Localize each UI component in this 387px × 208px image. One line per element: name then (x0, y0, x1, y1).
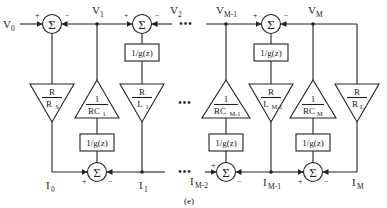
gain-denominator-subscript: 1 (145, 103, 148, 110)
gain-numerator: 1 (95, 94, 100, 104)
gain-numerator: R (268, 87, 274, 97)
label-sub: 1 (144, 185, 148, 194)
gain-denominator-subscript: M-1 (229, 110, 240, 117)
sigma-icon: Σ (309, 165, 317, 180)
label-main: I (46, 179, 50, 191)
minus-sign: − (284, 11, 289, 20)
gain-denominator-subscript: S (55, 103, 59, 110)
junction-dot (311, 22, 315, 26)
top-wires (20, 24, 357, 84)
gain-denominator-subscript: M-1 (271, 103, 282, 110)
label-sub: 0 (11, 24, 15, 33)
gain-numerator: 1 (311, 94, 316, 104)
sum-node-top-2: Σ + − (124, 11, 160, 34)
plus-sign: + (35, 11, 40, 20)
gain-numerator: 1 (224, 94, 229, 104)
plus-sign: + (253, 11, 258, 20)
sigma-icon: Σ (48, 17, 56, 32)
gain-denominator: RC (88, 106, 100, 116)
g-block-label: 1/g(z) (215, 138, 237, 148)
plus-sign: + (298, 177, 303, 186)
label-sub: M (316, 10, 323, 19)
label-main: I (190, 175, 194, 187)
g-block-label: 1/g(z) (131, 48, 153, 58)
plus-sign: + (211, 161, 216, 170)
gain-r-over-lm1: R L M-1 (249, 84, 293, 122)
g-block-bottom-2: 1/g(z) (209, 134, 243, 151)
sum-node-bottom-3: Σ + − (298, 163, 329, 187)
label-sub: M-2 (195, 181, 208, 190)
label-main: I (352, 176, 356, 188)
gain-denominator: L (263, 99, 269, 109)
label-sub: M (357, 182, 364, 191)
label-main: I (263, 176, 267, 188)
gain-r-over-l1: R L 1 (120, 84, 164, 122)
label-v1: V 1 (92, 4, 104, 19)
gain-denominator: L (137, 99, 143, 109)
gain-r-over-rs: R R S (30, 84, 74, 122)
minus-sign: − (237, 177, 242, 186)
ellipsis-top: ••• (179, 18, 193, 29)
minus-sign: − (155, 11, 160, 20)
label-main: V (216, 4, 224, 16)
gain-denominator-subscript: 1 (102, 110, 105, 117)
gain-denominator: R (46, 99, 52, 109)
g-block-label: 1/g(z) (302, 138, 324, 148)
g-block-label: 1/g(z) (260, 48, 282, 58)
label-v0: V 0 (3, 18, 15, 33)
sum-node-top-1: Σ + − (35, 11, 70, 34)
junction-dot (269, 170, 273, 174)
label-sub: M-1 (224, 10, 237, 19)
junction-dot (95, 22, 99, 26)
sigma-icon: Σ (138, 17, 146, 32)
g-block-label: 1/g(z) (86, 138, 108, 148)
figure-caption: (e) (184, 196, 194, 206)
gain-numerator: R (49, 87, 55, 97)
label-vm: V M (308, 4, 323, 19)
label-sub: M-1 (268, 182, 281, 191)
gain-denominator: RC (303, 106, 315, 116)
label-main: V (92, 4, 100, 16)
label-main: V (3, 18, 11, 30)
label-v2: V 2 (170, 4, 182, 19)
plus-sign: + (82, 177, 87, 186)
plus-sign: + (124, 11, 129, 20)
sigma-icon: Σ (93, 165, 101, 180)
gain-denominator: RC (214, 106, 226, 116)
signal-flow-diagram: Σ + − Σ + − Σ + − Σ + − Σ + − Σ + − 1/g(… (0, 0, 387, 208)
gain-1-over-rcm1: 1 RC M-1 (202, 80, 250, 118)
gain-denominator-subscript: L (360, 103, 364, 110)
sum-node-top-3: Σ + − (253, 11, 289, 34)
gain-numerator: R (354, 87, 360, 97)
gain-r-over-rl: R R L (335, 84, 379, 122)
sum-node-bottom-2: Σ + − (211, 161, 242, 186)
label-im: I M (352, 176, 364, 191)
sigma-icon: Σ (267, 17, 275, 32)
label-sub: 2 (178, 10, 182, 19)
gain-denominator: R (352, 99, 358, 109)
ellipsis-middle: ••• (178, 97, 192, 108)
label-sub: 1 (100, 10, 104, 19)
sum-node-bottom-1: Σ + − (82, 163, 113, 187)
label-vm-1: V M-1 (216, 4, 237, 19)
label-im-1: I M-1 (263, 176, 281, 191)
g-block-bottom-3: 1/g(z) (296, 134, 330, 151)
label-main: V (170, 4, 178, 16)
minus-sign: − (108, 177, 113, 186)
label-sub: 0 (51, 185, 55, 194)
gain-denominator-subscript: M (317, 110, 323, 117)
gain-numerator: R (139, 87, 145, 97)
g-block-top-1: 1/g(z) (125, 44, 159, 61)
gain-1-over-rc1: 1 RC 1 (75, 80, 119, 118)
label-i1: I 1 (139, 179, 148, 194)
minus-sign: − (324, 177, 329, 186)
g-block-top-2: 1/g(z) (254, 44, 288, 61)
gain-1-over-rcm: 1 RC M (290, 80, 336, 118)
label-i0: I 0 (46, 179, 55, 194)
junction-dot (140, 170, 144, 174)
minus-sign: − (65, 11, 70, 20)
sigma-icon: Σ (222, 165, 230, 180)
label-im-2: I M-2 (190, 175, 208, 190)
label-main: I (139, 179, 143, 191)
junction-dot (224, 22, 228, 26)
